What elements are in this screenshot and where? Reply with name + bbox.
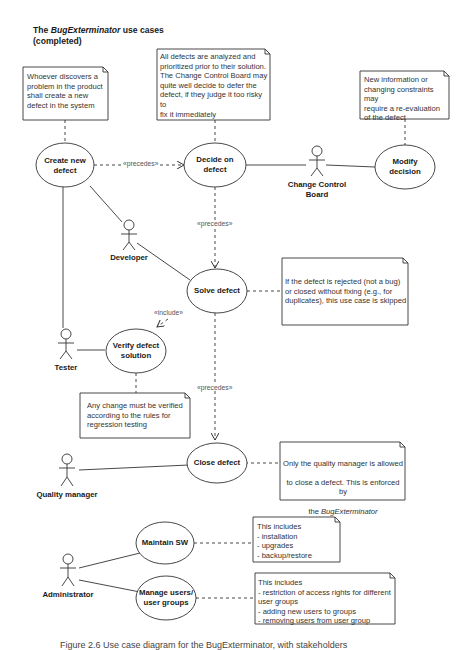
usecase-solve: Solve defect — [187, 286, 247, 296]
actor-developer-icon — [121, 220, 137, 250]
figure-caption: Figure 2.6 Use case diagram for the BugE… — [60, 640, 347, 650]
usecase-manage: Manage users/ user groups — [136, 588, 196, 608]
note-manage: This includes - restriction of access ri… — [258, 578, 394, 626]
actor-quality-icon — [59, 454, 75, 486]
note-verify: Any change must be verified according to… — [87, 401, 189, 430]
usecase-modify: Modify decision — [375, 157, 435, 177]
usecase-close: Close defect — [187, 458, 247, 468]
usecase-create: Create new defect — [36, 156, 94, 176]
actor-ccb-icon — [309, 146, 325, 176]
actor-admin-label: Administrator — [34, 590, 102, 600]
actor-tester-icon — [58, 329, 74, 359]
relation-include-solve-verify: «include» — [153, 309, 184, 316]
note-decide: All defects are analyzed and prioritized… — [160, 52, 270, 119]
note-solve: If the defect is rejected (not a bug) or… — [285, 277, 407, 306]
actor-ccb-label: Change Control Board — [282, 180, 352, 199]
usecase-maintain: Maintain SW — [136, 538, 194, 548]
actor-admin-icon — [60, 554, 76, 586]
note-modify: New information or changing constraints … — [364, 75, 448, 123]
relation-precedes-solve-close: «precedes» — [196, 384, 234, 391]
diagram-title: The BugExterminator use cases (completed… — [33, 25, 164, 47]
note-create: Whoever discovers a problem in the produ… — [27, 72, 107, 110]
usecase-decide: Decide on defect — [184, 155, 246, 175]
actor-tester-label: Tester — [46, 363, 86, 373]
note-close: Only the quality manager is allowed to c… — [282, 449, 404, 516]
note-maintain: This includes - installation - upgrades … — [257, 522, 339, 560]
usecase-verify: Verify defect solution — [106, 341, 166, 361]
relation-precedes-create-decide: «precedes» — [122, 160, 160, 167]
actor-developer-label: Developer — [104, 253, 154, 263]
actor-quality-label: Quality manager — [30, 490, 104, 500]
relation-precedes-decide-solve: «precedes» — [196, 220, 234, 227]
